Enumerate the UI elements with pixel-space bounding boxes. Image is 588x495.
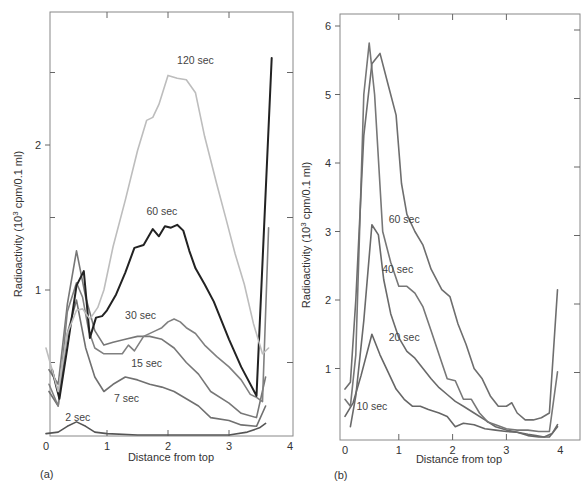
curve-label: 60 sec	[146, 205, 177, 217]
panel-b-series	[345, 43, 558, 437]
figure-canvas: 0123412 120 sec60 sec30 sec15 sec7 sec2 …	[0, 0, 588, 495]
panel-a-ticks: 0123412	[35, 12, 293, 452]
x-tick-label: 4	[557, 444, 563, 456]
series-2-sec	[46, 422, 266, 435]
curve-label: 120 sec	[177, 54, 214, 66]
x-tick-label: 4	[287, 440, 293, 452]
panel-a-y-axis-label: Radioactivity (103 cpm/0.1 ml)	[11, 151, 24, 297]
x-tick-label: 0	[342, 444, 348, 456]
panel-b-ticks: 01234123456	[325, 14, 580, 456]
panel-b-frame	[340, 14, 580, 440]
panel-b-curve-labels: 60 sec40 sec20 sec10 sec	[356, 213, 419, 411]
y-tick-label: 5	[325, 89, 331, 101]
y-tick-label: 2	[35, 139, 41, 151]
x-tick-label: 3	[226, 440, 232, 452]
panel-b-label: (b)	[334, 469, 347, 481]
x-tick-label: 3	[503, 444, 509, 456]
panel-b-y-axis-label: Radioactivity (103 cpm/0.1 ml)	[299, 162, 312, 308]
y-tick-label: 1	[35, 284, 41, 296]
series-60-sec	[345, 53, 558, 420]
y-tick-label: 1	[325, 363, 331, 375]
x-tick-label: 1	[396, 444, 402, 456]
x-tick-label: 0	[43, 440, 49, 452]
panel-a-label: (a)	[40, 468, 53, 480]
curve-label: 30 sec	[125, 309, 156, 321]
series-40-sec	[345, 43, 558, 431]
panel-a-chart: 0123412 120 sec60 sec30 sec15 sec7 sec2 …	[11, 12, 293, 480]
curve-label: 20 sec	[389, 331, 420, 343]
panel-a-x-axis-label: Distance from top	[128, 451, 214, 463]
panel-a-frame	[50, 12, 293, 436]
series-10-sec	[345, 334, 558, 437]
curve-label: 60 sec	[389, 213, 420, 225]
y-tick-label: 2	[325, 294, 331, 306]
y-tick-label: 6	[325, 20, 331, 32]
x-tick-label: 1	[104, 440, 110, 452]
curve-label: 7 sec	[114, 392, 139, 404]
curve-label: 15 sec	[131, 357, 162, 369]
curve-label: 10 sec	[356, 400, 387, 412]
panel-b-chart: 01234123456 60 sec40 sec20 sec10 sec Dis…	[299, 14, 580, 481]
panel-a-series	[46, 58, 272, 435]
curve-label: 40 sec	[382, 263, 413, 275]
panel-b-x-axis-label: Distance from top	[416, 453, 502, 465]
y-tick-label: 4	[325, 157, 331, 169]
y-tick-label: 3	[325, 226, 331, 238]
curve-label: 2 sec	[65, 411, 90, 423]
